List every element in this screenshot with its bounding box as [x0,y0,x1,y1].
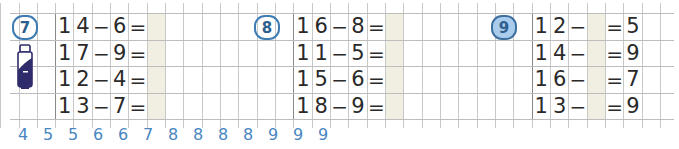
equals-sign: = [129,67,147,93]
minuend-ones-digit: 4 [551,41,569,67]
equals-sign: = [367,94,385,120]
minus-sign: − [92,41,110,67]
minuend-tens-digit: 1 [532,67,550,93]
grid-vline [0,3,1,128]
minus-sign: − [331,67,349,93]
equals-sign: = [606,41,624,67]
subtrahend-digit: 7 [111,94,129,120]
exercise-number: 9 [499,19,509,37]
subtrahend-digit: 8 [349,14,367,40]
exercise-number: 7 [20,19,30,37]
minuend-tens-digit: 1 [294,41,312,67]
number-line-item: 4 [16,125,30,144]
minuend-tens-digit: 1 [56,41,74,67]
equals-sign: = [367,67,385,93]
number-line-item: 8 [191,125,205,144]
equals-sign: = [367,14,385,40]
minuend-tens-digit: 1 [294,14,312,40]
minuend-tens-digit: 1 [532,41,550,67]
exercise-7-badge: 7 [12,15,38,40]
result-digit: 7 [624,67,642,93]
answer-input[interactable] [147,14,165,40]
minus-sign: − [569,14,587,40]
subtrahend-digit: 6 [349,67,367,93]
minuend-tens-digit: 1 [294,94,312,120]
equals-sign: = [129,94,147,120]
bottle-icon [15,44,35,90]
number-line-item: 9 [266,125,280,144]
equals-sign: = [606,94,624,120]
minus-sign: − [569,94,587,120]
minus-sign: − [331,94,349,120]
minuend-ones-digit: 7 [74,41,92,67]
equals-sign: = [129,14,147,40]
number-line-item: 6 [116,125,130,144]
minuend-ones-digit: 4 [74,14,92,40]
minus-sign: − [331,41,349,67]
minus-sign: − [92,94,110,120]
number-line-item: 8 [241,125,255,144]
number-line-item: 8 [216,125,230,144]
minus-sign: − [569,67,587,93]
minuend-ones-digit: 6 [312,14,330,40]
subtrahend-digit: 9 [349,94,367,120]
answer-input[interactable] [386,41,404,67]
missing-number-input[interactable] [587,14,605,40]
answer-input[interactable] [147,41,165,67]
equals-sign: = [606,67,624,93]
number-line-item: 5 [41,125,55,144]
equals-sign: = [367,41,385,67]
answer-input[interactable] [386,14,404,40]
subtrahend-digit: 4 [111,67,129,93]
equals-sign: = [129,41,147,67]
subtrahend-digit: 6 [111,14,129,40]
equals-sign: = [606,14,624,40]
number-line-item: 6 [91,125,105,144]
minuend-ones-digit: 1 [312,41,330,67]
minuend-tens-digit: 1 [532,94,550,120]
minuend-tens-digit: 1 [532,14,550,40]
subtrahend-digit: 5 [349,41,367,67]
minus-sign: − [92,67,110,93]
number-line-item: 9 [316,125,330,144]
minuend-ones-digit: 5 [312,67,330,93]
minuend-ones-digit: 3 [551,94,569,120]
missing-number-input[interactable] [587,41,605,67]
result-digit: 9 [624,94,642,120]
number-line-item: 5 [66,125,80,144]
missing-number-input[interactable] [587,94,605,120]
subtrahend-digit: 9 [111,41,129,67]
minuend-tens-digit: 1 [294,67,312,93]
number-line-item: 9 [291,125,305,144]
minuend-ones-digit: 3 [74,94,92,120]
number-line-item: 8 [166,125,180,144]
minuend-ones-digit: 8 [312,94,330,120]
minuend-ones-digit: 6 [551,67,569,93]
result-digit: 9 [624,41,642,67]
exercise-number: 8 [262,19,272,37]
answer-input[interactable] [147,94,165,120]
minuend-ones-digit: 2 [74,67,92,93]
answer-input[interactable] [386,67,404,93]
minuend-tens-digit: 1 [56,14,74,40]
answer-input[interactable] [386,94,404,120]
missing-number-input[interactable] [587,67,605,93]
number-line-item: 7 [141,125,155,144]
minus-sign: − [569,41,587,67]
exercise-8-badge: 8 [254,15,280,40]
answer-input[interactable] [147,67,165,93]
minuend-tens-digit: 1 [56,94,74,120]
minuend-ones-digit: 2 [551,14,569,40]
result-digit: 5 [624,14,642,40]
minus-sign: − [331,14,349,40]
minuend-tens-digit: 1 [56,67,74,93]
exercise-9-badge: 9 [491,15,517,40]
minus-sign: − [92,14,110,40]
